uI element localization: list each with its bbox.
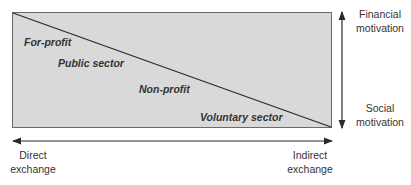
label-social-motivation: Social motivation [350, 101, 410, 129]
diagonal-divider [13, 13, 331, 127]
label-financial-motivation: Financial motivation [350, 7, 410, 35]
label-for-profit: For-profit [24, 36, 71, 48]
label-indirect-exchange: Indirect exchange [285, 148, 335, 176]
label-direct-exchange: Direct exchange [8, 148, 58, 176]
label-direct: Direct [8, 148, 58, 162]
label-voluntary-sector: Voluntary sector [200, 111, 282, 123]
label-indirect: Indirect [285, 148, 335, 162]
label-exchange-left: exchange [8, 162, 58, 176]
label-public-sector: Public sector [58, 57, 124, 69]
label-financial: Financial [350, 7, 410, 21]
label-exchange-right: exchange [285, 162, 335, 176]
label-motivation-top: motivation [350, 21, 410, 35]
label-non-profit: Non-profit [139, 83, 190, 95]
label-motivation-bottom: motivation [350, 115, 410, 129]
label-social: Social [350, 101, 410, 115]
